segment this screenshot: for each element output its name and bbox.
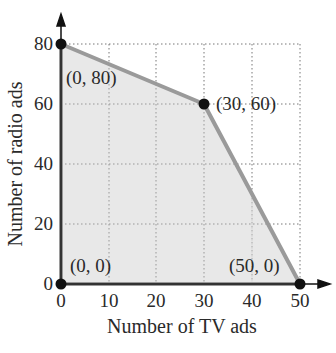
y-axis-label: Number of radio ads [4,81,26,246]
feasible-region-chart: (0, 80) (30, 60) (0, 0) (50, 0) 0 20 40 … [0,0,336,353]
svg-text:80: 80 [34,33,53,54]
point-label-0-0: (0, 0) [70,255,111,277]
svg-text:0: 0 [44,273,54,294]
svg-text:0: 0 [56,290,66,311]
svg-text:40: 40 [243,290,262,311]
svg-text:50: 50 [291,290,310,311]
point-label-0-80: (0, 80) [66,67,117,89]
svg-text:20: 20 [147,290,166,311]
svg-text:40: 40 [34,153,53,174]
x-tick-labels: 0 10 20 30 40 50 [56,290,309,311]
svg-text:60: 60 [34,93,53,114]
svg-text:10: 10 [100,290,119,311]
svg-text:20: 20 [34,213,53,234]
point-label-30-60: (30, 60) [216,93,276,115]
y-tick-labels: 0 20 40 60 80 [34,33,53,294]
x-axis-label: Number of TV ads [107,315,257,337]
point-label-50-0: (50, 0) [229,255,280,277]
svg-text:30: 30 [195,290,214,311]
